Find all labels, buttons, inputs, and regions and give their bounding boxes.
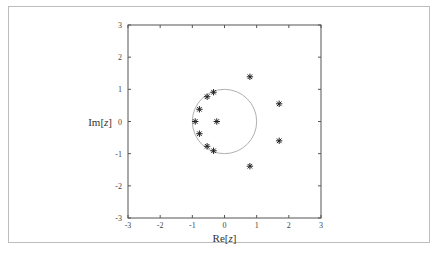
x-tick-label: 2: [287, 221, 291, 230]
y-tick-label: -2: [115, 182, 122, 191]
asterisk-marker: [247, 163, 253, 169]
y-tick-label: -1: [115, 150, 122, 159]
asterisk-marker: [192, 118, 198, 124]
axis-ticks: -3-2-10123-3-2-10123: [115, 21, 323, 230]
x-tick-label: -2: [157, 221, 164, 230]
asterisk-marker: [204, 94, 210, 100]
x-tick-label: 3: [319, 221, 323, 230]
plot-area: [128, 25, 321, 218]
asterisk-marker: [214, 118, 220, 124]
asterisk-marker: [210, 89, 216, 95]
y-tick-label: -3: [115, 214, 122, 223]
y-tick-label: 3: [118, 21, 122, 30]
asterisk-marker: [276, 101, 282, 107]
y-tick-label: 0: [118, 118, 122, 127]
x-axis-label: Re[z]: [213, 232, 237, 244]
scatter-plot: -3-2-10123-3-2-10123 Re[z] Im[z]: [0, 0, 438, 258]
asterisk-marker: [276, 138, 282, 144]
asterisk-marker: [196, 106, 202, 112]
y-tick-label: 2: [118, 53, 122, 62]
y-tick-label: 1: [118, 85, 122, 94]
unit-circle: [192, 89, 256, 153]
x-tick-label: -3: [125, 221, 132, 230]
x-tick-label: -1: [189, 221, 196, 230]
asterisk-marker: [196, 131, 202, 137]
asterisk-marker: [247, 74, 253, 80]
x-tick-label: 1: [255, 221, 259, 230]
y-axis-label: Im[z]: [88, 116, 112, 128]
asterisk-marker: [204, 143, 210, 149]
x-tick-label: 0: [223, 221, 227, 230]
data-points: [192, 74, 282, 170]
asterisk-marker: [210, 148, 216, 154]
